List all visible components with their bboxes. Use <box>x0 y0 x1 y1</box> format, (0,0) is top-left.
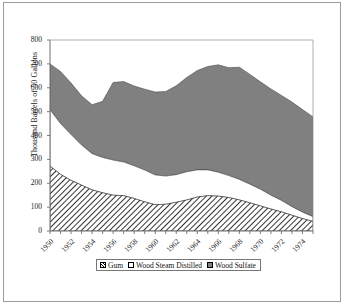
y-tick-label: 100 <box>20 203 42 211</box>
y-tick-label: 300 <box>20 155 42 163</box>
hatch-swatch-icon <box>100 262 106 268</box>
white-swatch-icon <box>128 262 134 268</box>
chart-page: Thousand Barrels of 50 Gallons 010020030… <box>0 0 346 308</box>
y-tick-label: 800 <box>20 36 42 44</box>
legend-item-wood-steam-distilled[interactable]: Wood Steam Distilled <box>128 261 202 270</box>
legend-item-gum[interactable]: Gum <box>100 261 123 270</box>
y-tick-label: 700 <box>20 60 42 68</box>
y-tick-label: 500 <box>20 108 42 116</box>
legend-item-wood-sulfate[interactable]: Wood Sulfate <box>207 261 256 270</box>
legend-label-gum: Gum <box>108 261 123 270</box>
y-tick-label: 400 <box>20 132 42 140</box>
gray-swatch-icon <box>207 262 213 268</box>
legend-label-wood-steam-distilled: Wood Steam Distilled <box>136 261 202 270</box>
y-tick-label: 600 <box>20 84 42 92</box>
legend-label-wood-sulfate: Wood Sulfate <box>215 261 256 270</box>
y-tick-label: 200 <box>20 179 42 187</box>
chart-legend: Gum Wood Steam Distilled Wood Sulfate <box>96 259 261 271</box>
y-tick-label: 0 <box>20 227 42 235</box>
